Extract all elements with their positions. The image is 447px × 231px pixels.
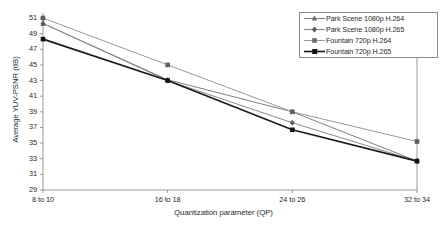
y-tick-label: 49 [21,30,37,38]
y-tick-label: 35 [21,139,37,147]
x-axis-title: Quantization parameter (QP) [0,208,447,217]
legend-label-1: Park Scene 1080p H.265 [326,24,404,35]
y-axis-title: Average YUV-PSNR (dB) [11,35,20,165]
y-tick-label: 31 [21,170,37,178]
data-point-square [41,16,46,21]
data-point-square [165,63,170,68]
y-tick-label: 29 [21,186,37,194]
chart-container: 514947454341393735333129 8 to 1016 to 18… [0,0,447,231]
data-point-square [41,37,46,42]
chart-legend: Park Scene 1080p H.264 Park Scene 1080p … [299,12,438,58]
legend-label-0: Park Scene 1080p H.264 [326,13,404,24]
data-point-square [290,128,295,133]
legend-label-3: Fountain 720p H.265 [326,46,391,57]
legend-marker-diamond-icon [303,24,326,35]
x-tick-label: 8 to 10 [16,196,70,204]
data-point-diamond [290,120,295,126]
x-tick-label: 32 to 34 [390,196,444,204]
data-point-square [290,110,295,115]
data-point-square [165,78,170,83]
x-tick-label: 16 to 18 [141,196,195,204]
legend-marker-square-gray-icon [303,35,326,46]
y-tick-label: 37 [21,123,37,131]
legend-item-0[interactable]: Park Scene 1080p H.264 [300,13,437,24]
y-tick-label: 43 [21,77,37,85]
legend-marker-triangle-icon [303,13,326,24]
legend-item-1[interactable]: Park Scene 1080p H.265 [300,24,437,35]
y-tick-label: 45 [21,61,37,69]
y-tick-label: 41 [21,92,37,100]
y-tick-label: 47 [21,45,37,53]
y-tick-label: 39 [21,108,37,116]
legend-item-2[interactable]: Fountain 720p H.264 [300,35,437,46]
legend-item-3[interactable]: Fountain 720p H.265 [300,46,437,57]
legend-label-2: Fountain 720p H.264 [326,35,391,46]
legend-marker-square-black-icon [303,46,326,57]
y-tick-label: 51 [21,14,37,22]
x-tick-label: 24 to 26 [265,196,319,204]
data-point-square [415,139,420,144]
y-tick-label: 33 [21,155,37,163]
data-point-square [415,159,420,164]
